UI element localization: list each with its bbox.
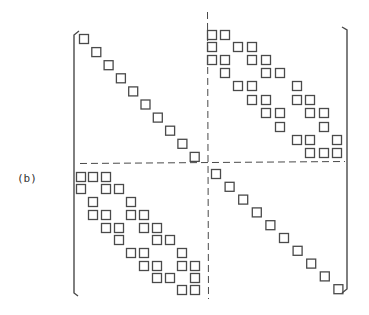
matrix-figure: (b) [0,0,369,315]
nonzero-entry [262,69,271,78]
sparsity-diagram [0,0,369,315]
nonzero-entry [262,109,271,118]
nonzero-entry [334,285,343,294]
nonzero-entry [89,198,98,207]
nonzero-entry [293,96,302,105]
nonzero-entry [276,123,285,132]
nonzero-entry [102,211,111,220]
nonzero-entry [320,109,329,118]
nonzero-entry [212,170,221,179]
nonzero-entry [208,31,217,40]
nonzero-entry [127,211,136,220]
nonzero-entry [178,286,187,295]
block-top-left-diagonal [80,35,200,162]
nonzero-entry [276,109,285,118]
nonzero-entry [276,69,285,78]
nonzero-entry [234,82,243,91]
right-bracket [342,27,347,293]
nonzero-entry [127,249,136,258]
nonzero-entry [140,262,149,271]
nonzero-entry [248,56,257,65]
nonzero-entry [127,198,136,207]
nonzero-entry [191,286,200,295]
nonzero-entry [166,236,175,245]
nonzero-entry [190,152,199,161]
nonzero-entry [178,262,187,271]
nonzero-entry [89,211,98,220]
nonzero-entry [80,35,89,44]
nonzero-entry [248,96,257,105]
nonzero-entry [248,82,257,91]
nonzero-entry [191,274,200,283]
nonzero-entry [115,185,124,194]
nonzero-entry [166,126,175,135]
nonzero-entry [102,224,111,233]
nonzero-entry [104,61,113,70]
nonzero-entry [166,274,175,283]
nonzero-entry [221,69,230,78]
nonzero-entry [208,43,217,52]
figure-label: (b) [17,172,37,185]
nonzero-entry [307,259,316,268]
nonzero-entry [115,236,124,245]
nonzero-entry [320,272,329,281]
nonzero-entry [153,224,162,233]
nonzero-entry [248,43,257,52]
nonzero-entry [178,139,187,148]
nonzero-entry [293,246,302,255]
nonzero-entry [102,173,111,182]
nonzero-entry [252,208,261,217]
nonzero-entry [320,149,329,158]
nonzero-entry [140,211,149,220]
block-top-right-coupling [208,31,342,158]
nonzero-entry [333,136,342,145]
nonzero-entry [115,224,124,233]
nonzero-entry [306,136,315,145]
nonzero-entry [280,234,289,243]
nonzero-entry [221,56,230,65]
nonzero-entry [234,43,243,52]
nonzero-entry [140,249,149,258]
nonzero-entry [92,48,101,57]
nonzero-entry [153,113,162,122]
horizontal-partition-line [80,162,345,164]
nonzero-entry [77,173,86,182]
nonzero-entry [306,109,315,118]
nonzero-entry [178,249,187,258]
block-bottom-left-coupling [77,173,200,295]
nonzero-entry [191,262,200,271]
nonzero-entry [266,221,275,230]
nonzero-entry [102,185,111,194]
nonzero-entry [262,96,271,105]
nonzero-entry [116,74,125,83]
nonzero-entry [306,149,315,158]
nonzero-entry [293,82,302,91]
nonzero-entry [77,185,86,194]
nonzero-entry [141,100,150,109]
nonzero-entry [208,56,217,65]
block-bottom-right-diagonal [212,170,343,294]
nonzero-entry [153,274,162,283]
nonzero-entry [333,149,342,158]
nonzero-entry [239,195,248,204]
nonzero-entry [129,87,138,96]
nonzero-entry [153,236,162,245]
nonzero-entry [262,56,271,65]
nonzero-entry [306,96,315,105]
nonzero-entry [293,136,302,145]
nonzero-entry [320,123,329,132]
nonzero-entry [221,31,230,40]
nonzero-entry [153,262,162,271]
nonzero-entry [140,224,149,233]
left-bracket [74,31,79,296]
nonzero-entry [225,182,234,191]
nonzero-entry [89,173,98,182]
